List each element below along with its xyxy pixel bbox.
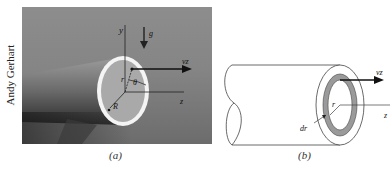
velocity-label-b: vz — [376, 68, 384, 77]
caption-a: (a) — [109, 149, 122, 161]
pipe-break — [225, 65, 242, 145]
pipe-photo-overlay: y g z vz r θ R — [22, 7, 212, 144]
shell-diagram: z vz r dr — [222, 55, 392, 150]
y-axis-label: y — [118, 25, 123, 35]
velocity-label: vz — [182, 57, 190, 66]
z-axis-label: z — [179, 97, 184, 106]
caption-b: (b) — [298, 149, 311, 161]
angle-label: θ — [133, 78, 137, 87]
z-axis-label-b: z — [383, 111, 388, 120]
pipe-radius-label: R — [112, 102, 118, 111]
pipe-photograph: y g z vz r θ R — [22, 7, 212, 144]
photo-credit: Andy Gerhart — [3, 7, 17, 143]
gravity-label: g — [149, 29, 153, 38]
shell-thickness-label: dr — [300, 124, 308, 133]
